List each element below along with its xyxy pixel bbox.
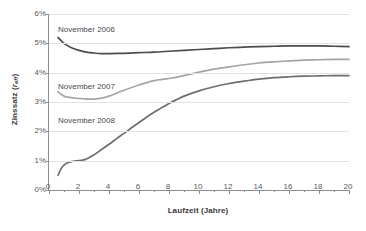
y-axis-tick-mark [46, 73, 49, 74]
x-axis-tick-label: 2 [66, 182, 90, 191]
y-axis-tick-mark [46, 131, 49, 132]
x-axis-minor-tick-mark [334, 190, 335, 192]
series-line-1 [58, 37, 349, 53]
gridline [49, 73, 349, 74]
x-axis-minor-tick-mark [214, 190, 215, 192]
y-axis-tick-label: 2% [4, 127, 46, 135]
x-axis-tick-label: 6 [126, 182, 150, 191]
y-axis-tick-label: 3% [4, 98, 46, 106]
x-axis-minor-tick-mark [184, 190, 185, 192]
gridline [49, 43, 349, 44]
y-axis-tick-label: 5% [4, 39, 46, 47]
y-axis-tick-mark [46, 43, 49, 44]
x-axis-minor-tick-mark [154, 190, 155, 192]
x-axis-minor-tick-mark [94, 190, 95, 192]
x-axis-tick-label: 8 [156, 182, 180, 191]
x-axis-tick-label: 0 [36, 182, 60, 191]
x-axis-minor-tick-mark [304, 190, 305, 192]
y-axis-tick-mark [46, 161, 49, 162]
y-axis-tick-label: 1% [4, 157, 46, 165]
gridline [49, 102, 349, 103]
y-axis-tick-label: 4% [4, 69, 46, 77]
x-axis-title: Laufzeit (Jahre) [48, 206, 348, 215]
x-axis-minor-tick-mark [244, 190, 245, 192]
x-axis-tick-label: 12 [216, 182, 240, 191]
plot-area [48, 14, 349, 191]
x-axis-tick-label: 20 [336, 182, 360, 191]
gridline [49, 131, 349, 132]
series-label-3: November 2008 [58, 116, 115, 125]
x-axis-minor-tick-mark [64, 190, 65, 192]
y-axis-tick-mark [46, 102, 49, 103]
y-axis-tick-label: 6% [4, 10, 46, 18]
yield-curve-chart: Zinssatz (reff) 0%1%2%3%4%5%6% Laufzeit … [0, 0, 366, 231]
y-axis-tick-mark [46, 14, 49, 15]
y-axis-tick-labels: 0%1%2%3%4%5%6% [0, 0, 46, 231]
x-axis-tick-label: 10 [186, 182, 210, 191]
gridline [49, 14, 349, 15]
x-axis-tick-label: 18 [306, 182, 330, 191]
series-label-2: November 2007 [58, 82, 115, 91]
x-axis-minor-tick-mark [274, 190, 275, 192]
x-axis-minor-tick-mark [124, 190, 125, 192]
series-label-1: November 2006 [58, 25, 115, 34]
series-line-2 [58, 59, 349, 99]
x-axis-tick-label: 16 [276, 182, 300, 191]
gridline [49, 161, 349, 162]
x-axis-tick-label: 4 [96, 182, 120, 191]
x-axis-tick-label: 14 [246, 182, 270, 191]
